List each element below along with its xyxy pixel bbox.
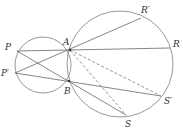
label-a: A [62,37,70,47]
segment-a-s [70,50,126,115]
labels-layer: ABPP′RR′SS′ [0,5,180,129]
label-p: P [4,42,12,52]
label-p2: P′ [0,68,9,78]
point-b-dot [68,80,70,82]
label-r2: R′ [140,5,150,15]
point-a-dot [69,49,71,51]
label-r: R [172,39,180,49]
segment-p-s [17,51,126,115]
segment-p2-r2 [15,18,141,73]
segments-layer [15,18,170,115]
label-b: B [63,86,71,96]
geometry-diagram: ABPP′RR′SS′ [0,0,183,129]
label-s: S [125,119,131,129]
label-s2: S′ [164,96,172,106]
segment-p-r [17,48,170,51]
